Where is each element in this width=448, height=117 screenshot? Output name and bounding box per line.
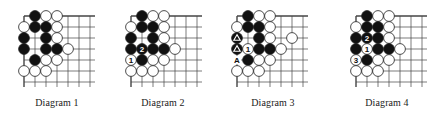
white-stone — [63, 44, 74, 55]
white-stone: 3 — [351, 55, 362, 66]
white-stone — [384, 55, 395, 66]
white-stone — [19, 22, 30, 33]
black-stone — [41, 33, 52, 44]
black-stone: 2 — [362, 33, 373, 44]
black-stone: 2 — [137, 44, 148, 55]
black-stone — [30, 22, 41, 33]
white-stone — [126, 22, 137, 33]
white-stone — [232, 22, 243, 33]
move-number: 1 — [365, 45, 370, 54]
black-stone — [30, 55, 41, 66]
diagram-3: 1A Diagram 3 — [213, 0, 325, 117]
black-stone — [373, 44, 384, 55]
white-stone — [351, 66, 362, 77]
black-stone — [362, 55, 373, 66]
black-stone — [243, 11, 254, 22]
black-stone — [148, 22, 159, 33]
black-stone — [126, 33, 137, 44]
black-stone — [137, 11, 148, 22]
white-stone — [351, 22, 362, 33]
white-stone — [159, 11, 170, 22]
move-number: 2 — [365, 34, 370, 43]
white-stone — [265, 33, 276, 44]
white-stone — [148, 66, 159, 77]
black-stone — [265, 44, 276, 55]
diagram-4: 213 Diagram 4 — [332, 0, 444, 117]
white-stone — [254, 11, 265, 22]
black-stone — [19, 44, 30, 55]
white-stone — [52, 11, 63, 22]
white-stone — [126, 66, 137, 77]
go-board-2: 21 — [107, 0, 219, 95]
black-stone — [351, 33, 362, 44]
black-stone — [126, 44, 137, 55]
white-stone — [362, 66, 373, 77]
white-stone — [373, 11, 384, 22]
white-stone — [159, 33, 170, 44]
white-stone — [287, 33, 298, 44]
move-number: 3 — [354, 56, 359, 65]
black-stone — [30, 11, 41, 22]
white-stone — [52, 33, 63, 44]
black-stone — [41, 44, 52, 55]
black-stone — [384, 44, 395, 55]
white-stone — [243, 66, 254, 77]
black-stone — [254, 22, 265, 33]
white-stone — [30, 66, 41, 77]
go-board-3: 1A — [213, 0, 325, 95]
white-stone — [52, 55, 63, 66]
black-stone — [232, 44, 243, 55]
white-stone — [148, 11, 159, 22]
black-stone — [52, 44, 63, 55]
black-stone — [243, 22, 254, 33]
white-stone: 1 — [362, 44, 373, 55]
white-stone — [52, 22, 63, 33]
white-stone — [373, 66, 384, 77]
white-stone — [159, 55, 170, 66]
diagram-caption: Diagram 2 — [107, 97, 219, 108]
point-label: A — [234, 56, 240, 65]
black-stone — [148, 44, 159, 55]
black-stone — [148, 33, 159, 44]
white-stone — [384, 22, 395, 33]
black-stone — [351, 44, 362, 55]
black-stone — [137, 22, 148, 33]
white-stone — [159, 22, 170, 33]
white-stone — [41, 66, 52, 77]
black-stone — [254, 44, 265, 55]
white-stone — [384, 11, 395, 22]
white-stone — [19, 66, 30, 77]
white-stone: 1 — [126, 55, 137, 66]
black-stone — [41, 22, 52, 33]
black-stone — [373, 33, 384, 44]
white-stone: 1 — [243, 44, 254, 55]
white-stone — [41, 55, 52, 66]
white-stone — [148, 55, 159, 66]
white-stone — [232, 66, 243, 77]
black-stone — [232, 33, 243, 44]
black-stone — [137, 55, 148, 66]
diagram-2: 21 Diagram 2 — [107, 0, 219, 117]
diagram-caption: Diagram 3 — [217, 97, 329, 108]
black-stone — [19, 33, 30, 44]
white-stone — [137, 66, 148, 77]
move-number: 2 — [140, 45, 145, 54]
black-stone — [243, 55, 254, 66]
black-stone — [362, 22, 373, 33]
white-stone — [41, 11, 52, 22]
move-number: 1 — [129, 56, 134, 65]
black-stone — [159, 44, 170, 55]
white-stone — [373, 55, 384, 66]
black-stone — [362, 11, 373, 22]
white-stone — [276, 44, 287, 55]
diagram-1: Diagram 1 — [0, 0, 112, 117]
black-stone — [254, 33, 265, 44]
white-stone — [395, 44, 406, 55]
diagram-caption: Diagram 1 — [1, 97, 113, 108]
white-stone — [265, 22, 276, 33]
white-stone — [254, 55, 265, 66]
black-stone — [373, 22, 384, 33]
white-stone — [254, 66, 265, 77]
white-stone — [384, 33, 395, 44]
white-stone — [265, 11, 276, 22]
